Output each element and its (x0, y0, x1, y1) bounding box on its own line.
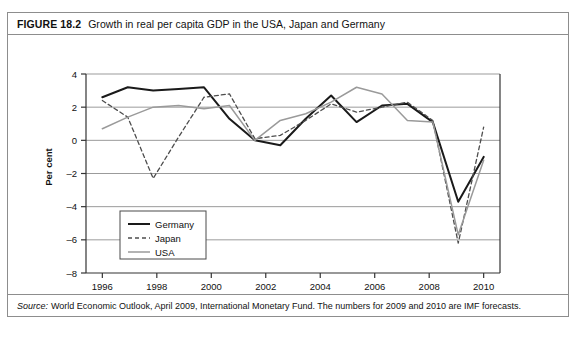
y-tick-label: –4 (66, 201, 77, 212)
legend-label-germany: Germany (155, 219, 194, 230)
figure-title: Growth in real per capita GDP in the USA… (88, 18, 385, 30)
line-chart: 420–2–4–6–819961998200020022004200620082… (8, 35, 570, 295)
x-tick-label: 1998 (146, 281, 167, 292)
figure-source: Source: World Economic Outlook, April 20… (8, 294, 568, 316)
figure-container: FIGURE 18.2 Growth in real per capita GD… (7, 12, 569, 317)
figure-number: FIGURE 18.2 (17, 18, 81, 30)
y-tick-label: 2 (72, 102, 77, 113)
legend-label-usa: USA (155, 247, 175, 258)
x-tick-label: 2008 (419, 281, 440, 292)
x-tick-label: 2010 (473, 281, 494, 292)
x-tick-label: 2004 (310, 281, 331, 292)
figure-header: FIGURE 18.2 Growth in real per capita GD… (8, 13, 568, 35)
y-tick-label: –2 (66, 168, 77, 179)
source-label: Source: (17, 301, 48, 311)
chart-legend: GermanyJapanUSA (120, 211, 206, 259)
source-text: World Economic Outlook, April 2009, Inte… (51, 301, 521, 311)
x-tick-label: 2006 (364, 281, 385, 292)
y-tick-label: –6 (66, 234, 77, 245)
chart-area: 420–2–4–6–819961998200020022004200620082… (8, 35, 568, 295)
series-line-germany (102, 87, 483, 201)
y-tick-label: 4 (72, 69, 77, 80)
y-tick-label: 0 (72, 135, 77, 146)
legend-label-japan: Japan (155, 233, 181, 244)
y-axis-label: Per cent (43, 147, 54, 185)
x-tick-label: 1996 (92, 281, 113, 292)
x-tick-label: 2002 (255, 281, 276, 292)
y-tick-label: –8 (66, 268, 77, 279)
x-tick-label: 2000 (201, 281, 222, 292)
